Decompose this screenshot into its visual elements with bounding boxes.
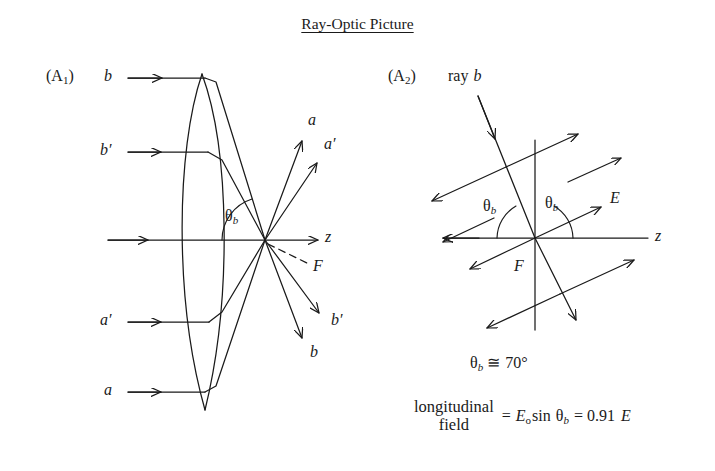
- angle-arc-a2-left: [497, 206, 516, 238]
- label-focal-F-a1: F: [313, 258, 323, 274]
- panel-tag-a2-sub: 2: [405, 74, 411, 86]
- equation-lhs-line2: field: [414, 416, 494, 434]
- field-label-E: E: [610, 190, 620, 206]
- equation-result-value: 0.91: [587, 407, 615, 425]
- field-vector-lower: [487, 260, 634, 328]
- equation-term-sub: o: [526, 414, 532, 426]
- equation-rhs: = E o sin θ b = 0.91 E: [502, 407, 631, 425]
- caption-angle-sub: b: [478, 361, 484, 373]
- focal-dashed-line: [268, 244, 309, 264]
- angle-label-a2-right: θb: [545, 195, 558, 211]
- equation-lhs-line1: longitudinal: [414, 398, 494, 416]
- angle-label-a2-left-theta: θ: [483, 197, 491, 214]
- outgoing-ray-b-prime: [265, 240, 319, 313]
- axis-label-z-a2: z: [655, 228, 661, 244]
- equation-lhs: longitudinal field: [414, 398, 494, 435]
- panel-tag-a1-sub: 1: [63, 74, 69, 86]
- panel-tag-a2: (A2): [388, 68, 416, 84]
- angle-label-a1: θb: [225, 208, 238, 224]
- label-outgoing-a: a: [308, 112, 316, 128]
- label-incoming-b: b: [104, 68, 112, 84]
- caption-angle-relation: ≅: [487, 354, 500, 371]
- panel-tag-a1: (A1): [46, 68, 74, 84]
- angle-label-a2-right-sub: b: [553, 201, 559, 213]
- field-arrow-short-upper: [568, 158, 621, 182]
- label-incoming-b-prime-mark: ′: [108, 141, 112, 158]
- label-outgoing-b: b: [310, 344, 318, 360]
- panel-tag-a1-open: (A: [46, 67, 63, 84]
- equation-angle-sub: b: [563, 414, 569, 426]
- label-ray-b: rayb: [448, 68, 481, 84]
- caption-angle-number: 70°: [505, 354, 527, 371]
- axis-label-z-a1: z: [325, 229, 331, 245]
- panel-tag-a1-close: ): [68, 67, 73, 84]
- outgoing-ray-a: [265, 141, 302, 240]
- caption-equation: longitudinal field = E o sin θ b = 0.91 …: [414, 398, 631, 435]
- caption-angle-theta: θ: [470, 354, 478, 371]
- label-outgoing-b-prime: b′: [331, 312, 343, 328]
- angle-label-a2-left: θb: [483, 198, 496, 214]
- label-incoming-a-prime-mark: ′: [108, 311, 112, 328]
- angle-label-a1-theta: θ: [225, 207, 233, 224]
- label-incoming-b-prime: b′: [100, 142, 112, 158]
- equation-equals-2: =: [574, 407, 583, 425]
- label-ray-b-symbol: b: [473, 67, 481, 84]
- outgoing-ray-a-prime: [265, 163, 317, 240]
- label-incoming-a: a: [104, 382, 112, 398]
- panel-tag-a2-close: ): [410, 67, 415, 84]
- label-incoming-a-prime: a′: [100, 312, 112, 328]
- panel-tag-a2-open: (A: [388, 67, 405, 84]
- angle-label-a1-sub: b: [233, 214, 239, 226]
- angle-label-a2-left-sub: b: [491, 204, 497, 216]
- ray-a-prime-path: [209, 240, 265, 322]
- label-incoming-b-prime-base: b: [100, 141, 108, 158]
- equation-result-unit: E: [621, 407, 631, 425]
- figure-page: Ray-Optic Picture: [0, 0, 715, 471]
- equation-angle-theta: θ: [556, 407, 564, 425]
- angle-label-a2-right-theta: θ: [545, 194, 553, 211]
- label-ray-b-prefix: ray: [448, 67, 468, 84]
- ray-b-prime-path: [208, 152, 265, 240]
- label-incoming-a-prime-base: a: [100, 311, 108, 328]
- label-outgoing-a-prime: a′: [324, 136, 336, 152]
- lens-body: [182, 74, 224, 410]
- field-vector-upper: [432, 134, 578, 201]
- equation-term-E: E: [516, 407, 526, 425]
- equation-function-sin: sin: [532, 407, 551, 425]
- caption-angle-value: θb≅70°: [470, 355, 528, 372]
- label-focal-F-a2: F: [514, 258, 524, 274]
- outgoing-ray-b: [265, 240, 302, 338]
- equation-equals-1: =: [502, 407, 511, 425]
